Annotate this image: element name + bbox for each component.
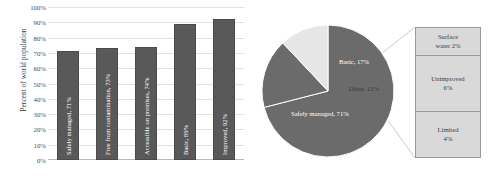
pie-label-safely-managed: Safely managed, 71% xyxy=(291,110,349,117)
callout-segment-unimproved: Unimproved 6% xyxy=(416,56,480,112)
bar-label-safely-managed: Safely managed, 71% xyxy=(64,97,71,155)
callout-unimproved-value: 6% xyxy=(431,84,464,92)
y-tick-40: 40% xyxy=(12,95,46,102)
pie-label-basic: Basic, 17% xyxy=(339,58,369,65)
callout-segment-surface-water: Surface water 2% xyxy=(416,28,480,56)
bar-label-improved: Improved, 92% xyxy=(221,114,228,155)
y-tick-50: 50% xyxy=(12,80,46,87)
bar-free-from-contamination: Free from contamination, 73% xyxy=(96,48,118,160)
bar-safely-managed: Safely managed, 71% xyxy=(57,51,79,160)
callout-surface-water-value: water 2% xyxy=(435,42,460,50)
callout-limited-value: 4% xyxy=(438,135,459,143)
y-tick-70: 70% xyxy=(12,49,46,56)
bar-label-basic: Basic, 89% xyxy=(182,125,189,155)
callout-limited-name: Limited xyxy=(438,126,459,134)
bar-basic: Basic, 89% xyxy=(174,24,196,160)
y-tick-80: 80% xyxy=(12,34,46,41)
bar-improved: Improved, 92% xyxy=(213,19,235,160)
bar-plot-area: Safely managed, 71% Free from contaminat… xyxy=(48,7,244,160)
callout-surface-water-name: Surface xyxy=(435,33,460,41)
y-axis-tick-labels: 100% 90% 80% 70% 60% 50% 40% 30% 20% 10%… xyxy=(6,0,46,182)
gridline-100 xyxy=(48,7,244,8)
y-tick-20: 20% xyxy=(12,126,46,133)
callout-segment-limited: Limited 4% xyxy=(416,112,480,157)
y-tick-0: 0% xyxy=(12,157,46,164)
other-breakdown-callout: Surface water 2% Unimproved 6% Limited 4… xyxy=(415,27,481,158)
pie-label-other: Other, 12% xyxy=(349,85,379,92)
y-tick-60: 60% xyxy=(12,65,46,72)
bar-label-accessible-on-premises: Accessible on premises, 74% xyxy=(143,77,150,155)
y-tick-100: 100% xyxy=(12,4,46,11)
y-tick-30: 30% xyxy=(12,111,46,118)
callout-unimproved-name: Unimproved xyxy=(431,75,464,83)
bar-chart-panel: Percent of world population 100% 90% 80%… xyxy=(0,0,248,182)
bar-accessible-on-premises: Accessible on premises, 74% xyxy=(135,47,157,160)
y-tick-10: 10% xyxy=(12,141,46,148)
bar-label-free-from-contamination: Free from contamination, 73% xyxy=(103,74,110,155)
y-tick-90: 90% xyxy=(12,19,46,26)
pie-chart-panel: Safely managed, 71% Basic, 17% Other, 12… xyxy=(248,0,491,182)
pie-chart: Safely managed, 71% Basic, 17% Other, 12… xyxy=(261,24,395,158)
water-access-figure: Percent of world population 100% 90% 80%… xyxy=(0,0,491,182)
